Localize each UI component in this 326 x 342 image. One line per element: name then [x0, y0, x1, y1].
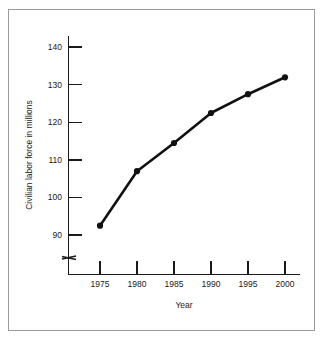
- data-series-line: [100, 77, 285, 225]
- data-point-1975: [97, 223, 103, 229]
- x-tick-label-1990: 1990: [202, 279, 221, 289]
- x-tick-label-1985: 1985: [165, 279, 184, 289]
- x-tick-label-1975: 1975: [91, 279, 110, 289]
- y-tick-label-130: 130: [48, 80, 62, 90]
- line-chart-plot: 140 130 120 110 100 90 1975 1980 1985 19…: [0, 0, 326, 342]
- x-tick-label-1980: 1980: [128, 279, 147, 289]
- x-tick-label-2000: 2000: [276, 279, 295, 289]
- x-tick-label-1995: 1995: [239, 279, 258, 289]
- y-tick-label-120: 120: [48, 117, 62, 127]
- x-axis-title: Year: [175, 300, 192, 310]
- chart-figure: 140 130 120 110 100 90 1975 1980 1985 19…: [0, 0, 326, 342]
- data-point-2000: [282, 74, 288, 80]
- data-point-1995: [245, 91, 251, 97]
- y-tick-label-140: 140: [48, 42, 62, 52]
- y-tick-label-100: 100: [48, 192, 62, 202]
- data-point-1990: [208, 110, 214, 116]
- data-point-1980: [134, 168, 140, 174]
- y-tick-label-90: 90: [53, 230, 63, 240]
- data-point-1985: [171, 140, 177, 146]
- y-tick-label-110: 110: [48, 155, 62, 165]
- y-axis-title: Civilian labor force in millions: [24, 100, 34, 210]
